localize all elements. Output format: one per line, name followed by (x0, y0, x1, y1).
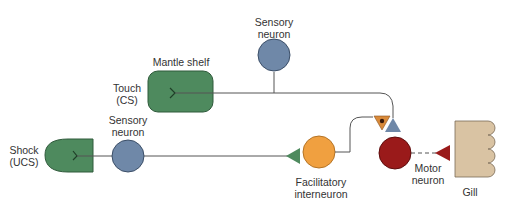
bottom-sensory-label: Sensory neuron (104, 114, 152, 138)
facilitatory-interneuron (303, 136, 335, 168)
mantle-shelf-receptor (148, 71, 213, 112)
shock-ucs-label: Shock (UCS) (6, 144, 42, 168)
top-sensory-neuron (258, 39, 290, 71)
gill-label: Gill (458, 186, 482, 198)
sensory-terminal-triangle (286, 148, 300, 164)
motor-neuron-label: Motor neuron (410, 162, 446, 186)
motor-terminal-triangle (435, 145, 450, 161)
facilitatory-label: Facilitatory interneuron (290, 176, 352, 200)
gill (455, 121, 495, 177)
top-sensory-label: Sensory neuron (250, 16, 298, 40)
bottom-sensory-neuron (112, 140, 144, 172)
touch-cs-label: Touch (CS) (110, 82, 144, 106)
motor-neuron (379, 137, 411, 169)
facilitatory-axon (335, 117, 373, 152)
terminal-dot-icon (380, 119, 384, 123)
mantle-shelf-label: Mantle shelf (148, 56, 214, 68)
